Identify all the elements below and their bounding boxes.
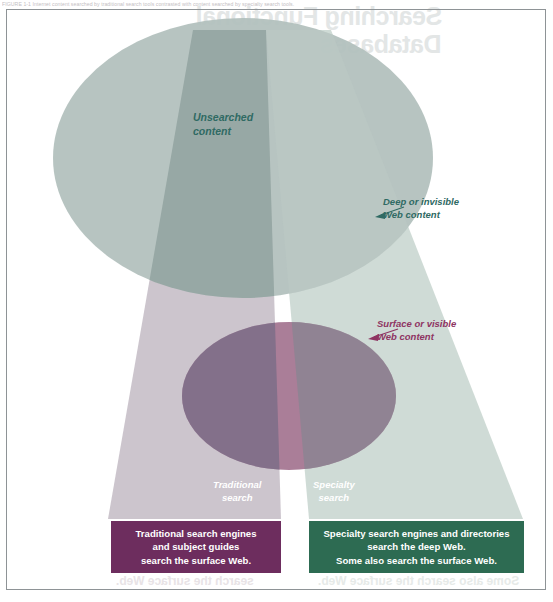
callout-traditional-line1: Traditional search engines: [135, 527, 256, 541]
label-unsearched-line2: content: [193, 124, 253, 138]
label-surface-line2: Web content: [377, 331, 456, 344]
label-specialty-line1: Specialty: [313, 478, 355, 491]
label-traditional-line2: search: [213, 491, 261, 504]
label-traditional-line1: Traditional: [213, 478, 261, 491]
callout-specialty-line3: Some also search the surface Web.: [323, 554, 509, 568]
diagram-canvas: [0, 0, 553, 602]
callout-traditional-line2: and subject guides: [135, 540, 256, 554]
label-surface-web-content: Surface or visible Web content: [377, 318, 456, 343]
callout-specialty-line1: Specialty search engines and directories: [323, 527, 509, 541]
label-surface-line1: Surface or visible: [377, 318, 456, 331]
label-unsearched-content: Unsearched content: [193, 110, 253, 138]
label-specialty-search-beam: Specialty search: [313, 478, 355, 504]
label-deep-line1: Deep or invisible: [383, 196, 459, 209]
label-specialty-line2: search: [313, 491, 355, 504]
callout-specialty-line2: search the deep Web.: [323, 540, 509, 554]
label-deep-web-content: Deep or invisible Web content: [383, 196, 459, 221]
venn-beam-diagram: Unsearched content Deep or invisible Web…: [0, 0, 553, 602]
label-deep-line2: Web content: [383, 209, 459, 222]
callout-traditional-line3: search the surface Web.: [135, 554, 256, 568]
label-traditional-search-beam: Traditional search: [213, 478, 261, 504]
label-unsearched-line1: Unsearched: [193, 110, 253, 124]
callout-traditional-search: Traditional search engines and subject g…: [111, 521, 281, 573]
callout-specialty-search: Specialty search engines and directories…: [309, 521, 524, 573]
